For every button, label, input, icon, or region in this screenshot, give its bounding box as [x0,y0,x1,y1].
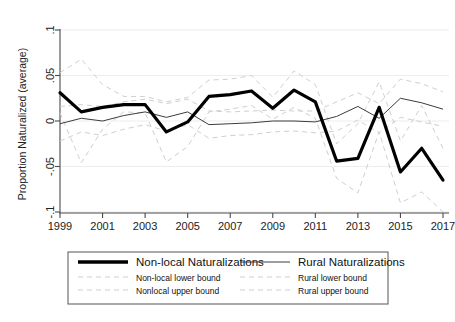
y-axis-ticks: .1.050-.05-.1 [44,25,60,218]
x-tick-label: 2005 [175,220,199,232]
x-tick-label: 2011 [304,220,328,232]
x-tick-label: 1999 [48,220,72,232]
x-tick-label: 2009 [261,220,285,232]
y-tick-label: 0 [44,118,56,124]
legend-label: Rural Naturalizations [298,256,405,268]
x-tick-label: 2001 [90,220,114,232]
legend-label: Non-local lower bound [136,273,221,283]
legend-label: Nonlocal upper bound [136,286,219,296]
legend-label: Rural lower bound [298,273,367,283]
y-tick-label: -.05 [44,157,56,176]
series-line [60,106,443,212]
y-tick-label: -.1 [44,206,56,219]
y-tick-label: .05 [44,68,56,83]
x-tick-label: 2015 [388,220,412,232]
y-tick-label: .1 [44,25,56,34]
x-axis-ticks: 1999200120032005200720092011201320152017 [48,213,455,232]
x-tick-label: 2003 [133,220,157,232]
data-series [60,59,443,212]
legend-label: Rural upper bound [298,286,369,296]
chart-legend: Non-local NaturalizationsRural Naturaliz… [68,252,405,304]
x-tick-label: 2007 [218,220,242,232]
line-chart: .1.050-.05-.1 19992001200320052007200920… [0,0,455,322]
x-tick-label: 2017 [431,220,455,232]
x-tick-label: 2013 [346,220,370,232]
chart-figure: .1.050-.05-.1 19992001200320052007200920… [0,0,455,322]
y-axis-title: Proportion Naturalized (average) [16,48,28,200]
grid-lines [60,30,449,212]
